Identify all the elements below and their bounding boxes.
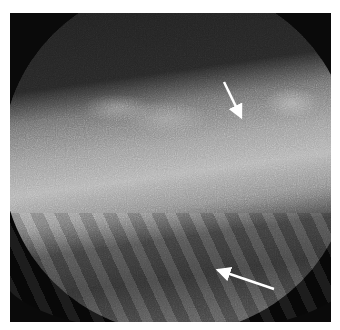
image-frame xyxy=(10,13,331,322)
radiograph-field xyxy=(10,13,331,322)
striated-structures xyxy=(10,213,331,322)
